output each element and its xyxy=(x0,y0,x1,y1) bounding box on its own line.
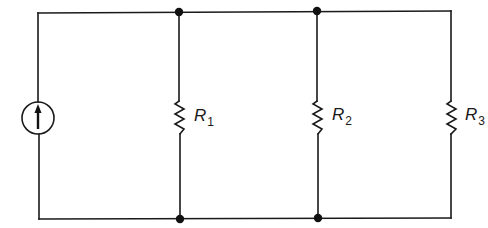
resistor-label-r1: R1 xyxy=(194,107,214,124)
resistor-r1-icon xyxy=(175,101,184,134)
junction-node-bottom-1 xyxy=(176,215,184,223)
circuit-schematic xyxy=(0,0,488,228)
resistor-r1-name: R xyxy=(194,106,206,125)
resistor-r2-subscript: 2 xyxy=(345,114,352,128)
resistor-label-r3: R3 xyxy=(465,106,485,123)
resistor-label-r2: R2 xyxy=(332,106,352,123)
junction-node-top-1 xyxy=(175,8,183,16)
resistor-r3-icon xyxy=(447,101,456,134)
resistor-r1-subscript: 1 xyxy=(207,115,214,129)
bottom-rail-wire xyxy=(39,218,451,219)
resistor-r2-name: R xyxy=(332,105,344,124)
junction-node-top-2 xyxy=(313,7,321,15)
resistor-r2-icon xyxy=(313,101,322,134)
resistor-r3-subscript: 3 xyxy=(478,114,485,128)
wires xyxy=(38,11,451,219)
circuit-diagram: R1 R2 R3 xyxy=(0,0,488,228)
current-source-icon xyxy=(22,102,54,134)
junction-node-bottom-2 xyxy=(314,214,322,222)
top-rail-wire xyxy=(38,11,451,13)
resistor-r3-name: R xyxy=(465,105,477,124)
